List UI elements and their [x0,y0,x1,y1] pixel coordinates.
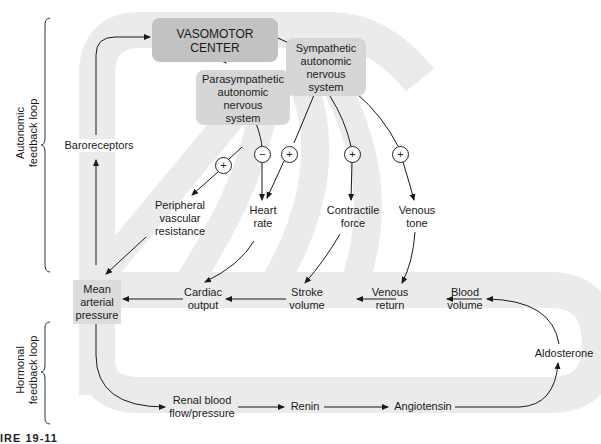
vasomotor-center-node: VASOMOTOR CENTER [152,18,278,62]
hormonal-feedback-loop-label: Hormonal feedback loop [14,325,40,415]
plus-sign-icon: + [215,157,232,174]
node-line: nervous [286,68,366,81]
stroke-volume-node: Stroke volume [282,286,332,312]
label-line: Autonomic [14,88,27,178]
renal-blood-flow-node: Renal blood flow/pressure [166,394,238,420]
blood-volume-node: Blood volume [440,286,490,312]
node-line: Heart [238,204,288,217]
heart-rate-node: Heart rate [238,204,288,230]
node-line: autonomic [286,55,366,68]
node-line: volume [282,299,332,312]
autonomic-brace [41,18,50,272]
minus-sign-icon: − [254,146,271,163]
baroreceptors-node: Baroreceptors [60,139,138,152]
plus-sign-icon: + [392,146,409,163]
label-line: feedback loop [27,88,40,178]
node-line: arterial [73,296,121,309]
plus-sign-icon: + [344,146,361,163]
venous-return-node: Venous return [365,286,415,312]
node-line: Renal blood [166,394,238,407]
node-line: Mean [73,283,121,296]
sympathetic-node: Sympathetic autonomic nervous system [286,38,366,96]
cardiac-output-node: Cardiac output [178,286,228,312]
contractile-force-node: Contractile force [318,204,388,230]
node-line: nervous [196,99,290,112]
aldosterone-node: Aldosterone [528,347,600,360]
peripheral-vascular-resistance-node: Peripheral vascular resistance [140,199,220,238]
renin-node: Renin [286,400,324,413]
venous-tone-node: Venous tone [392,204,442,230]
node-line: Cardiac [178,286,228,299]
node-line: Venous [365,286,415,299]
node-line: volume [440,299,490,312]
node-line: output [178,299,228,312]
node-line: pressure [73,309,121,322]
node-line: system [286,81,366,94]
node-line: autonomic [196,86,290,99]
label-line: feedback loop [27,325,40,415]
parasympathetic-node: Parasympathetic autonomic nervous system [196,70,290,125]
node-line: Blood [440,286,490,299]
hormonal-brace [41,322,50,424]
figure-caption-fragment: IRE 19-11 [0,432,58,444]
node-line: tone [392,217,442,230]
node-line: rate [238,217,288,230]
node-line: Contractile [318,204,388,217]
node-line: Stroke [282,286,332,299]
node-line: vascular [140,212,220,225]
node-line: Sympathetic [286,42,366,55]
plus-sign-icon: + [281,146,298,163]
node-line: Venous [392,204,442,217]
node-line: Peripheral [140,199,220,212]
node-line: flow/pressure [166,407,238,420]
autonomic-feedback-loop-label: Autonomic feedback loop [14,88,40,178]
node-line: system [196,112,290,125]
node-line: Parasympathetic [196,73,290,86]
node-line: resistance [140,225,220,238]
angiotensin-node: Angiotensin [390,400,456,413]
label-line: Hormonal [14,325,27,415]
mean-arterial-pressure-node: Mean arterial pressure [73,280,121,324]
node-line: return [365,299,415,312]
node-line: force [318,217,388,230]
